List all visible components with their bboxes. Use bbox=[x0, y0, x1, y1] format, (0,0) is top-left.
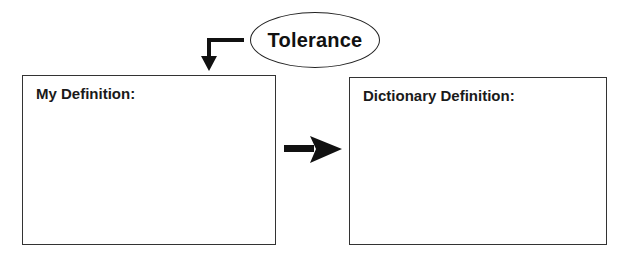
term-oval: Tolerance bbox=[250, 12, 380, 68]
my-definition-box[interactable]: My Definition: bbox=[22, 75, 276, 245]
my-definition-label: My Definition: bbox=[36, 85, 135, 102]
term-label: Tolerance bbox=[268, 29, 363, 52]
dictionary-definition-label: Dictionary Definition: bbox=[363, 87, 515, 104]
dictionary-definition-box[interactable]: Dictionary Definition: bbox=[349, 77, 607, 245]
right-arrow-icon bbox=[284, 136, 342, 163]
word-definition-diagram: Tolerance My Definition: Dictionary Defi… bbox=[0, 0, 625, 258]
elbow-down-arrow-icon bbox=[201, 40, 244, 71]
